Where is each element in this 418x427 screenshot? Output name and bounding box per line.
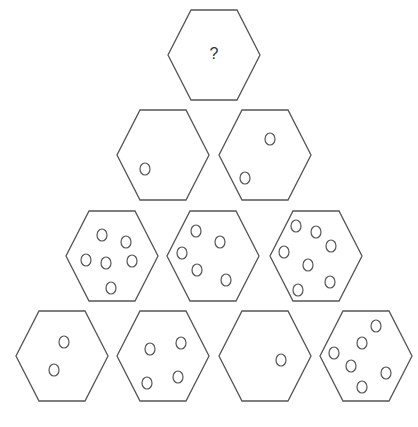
circle-dot bbox=[192, 264, 202, 276]
circle-dot bbox=[325, 276, 335, 288]
circle-dot bbox=[215, 236, 225, 248]
circle-dot bbox=[276, 354, 286, 366]
hexagon-cell bbox=[66, 211, 158, 301]
circle-dot bbox=[49, 364, 59, 376]
hexagon-outline bbox=[117, 311, 209, 401]
question-mark: ? bbox=[194, 45, 234, 63]
circle-dot bbox=[142, 377, 152, 389]
hexagon-outline bbox=[16, 311, 108, 401]
circle-dot bbox=[357, 337, 367, 349]
hexagon-cell bbox=[270, 211, 362, 301]
circle-dot bbox=[121, 236, 131, 248]
hexagon-outline bbox=[219, 311, 311, 401]
circle-dot bbox=[127, 255, 137, 267]
puzzle-canvas: ? bbox=[0, 0, 418, 427]
hexagon-cell bbox=[16, 311, 108, 401]
hexagon-cell bbox=[219, 110, 311, 200]
hexagon-outline bbox=[219, 110, 311, 200]
circle-dot bbox=[145, 343, 155, 355]
circle-dot bbox=[279, 246, 289, 258]
hexagon-cell bbox=[117, 110, 209, 200]
circle-dot bbox=[346, 360, 356, 372]
circle-dot bbox=[173, 371, 183, 383]
circle-dot bbox=[59, 336, 69, 348]
hexagon-cell bbox=[117, 311, 209, 401]
circle-dot bbox=[329, 347, 339, 359]
circle-dot bbox=[221, 274, 231, 286]
circle-dot bbox=[293, 284, 303, 296]
hexagon-cell bbox=[219, 311, 311, 401]
circle-dot bbox=[176, 337, 186, 349]
circle-dot bbox=[326, 240, 336, 252]
hexagon-outline bbox=[117, 110, 209, 200]
circle-dot bbox=[81, 254, 91, 266]
circle-dot bbox=[371, 320, 381, 332]
hexagon-pyramid bbox=[0, 0, 418, 427]
hexagon-cell bbox=[167, 211, 259, 301]
circle-dot bbox=[140, 163, 150, 175]
circle-dot bbox=[303, 259, 313, 271]
circle-dot bbox=[177, 247, 187, 259]
circle-dot bbox=[265, 133, 275, 145]
circle-dot bbox=[106, 282, 116, 294]
circle-dot bbox=[191, 225, 201, 237]
circle-dot bbox=[101, 257, 111, 269]
circle-dot bbox=[97, 229, 107, 241]
circle-dot bbox=[240, 172, 250, 184]
circle-dot bbox=[381, 367, 391, 379]
circle-dot bbox=[291, 220, 301, 232]
hexagon-cell bbox=[320, 311, 412, 401]
circle-dot bbox=[357, 381, 367, 393]
circle-dot bbox=[311, 226, 321, 238]
